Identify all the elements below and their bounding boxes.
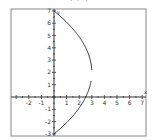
- chart: -2-11234567-3-2-11234567xy: [0, 0, 158, 140]
- plot-frame: [11, 9, 146, 136]
- y-tick-label: 4: [47, 44, 51, 51]
- x-tick-label: 6: [128, 99, 132, 106]
- y-tick-label: 1: [47, 81, 51, 88]
- y-tick-label: -2: [45, 118, 51, 125]
- x-tick-label: -1: [38, 99, 44, 106]
- y-tick-label: 2: [47, 68, 51, 75]
- x-tick-label: 7: [140, 99, 144, 106]
- x-tick-label: 1: [65, 99, 69, 106]
- y-tick-label: 3: [47, 56, 51, 63]
- y-tick-label: 6: [47, 19, 51, 26]
- x-tick-label: -2: [26, 99, 32, 106]
- x-axis-label: x: [144, 89, 147, 95]
- y-tick-label: 5: [47, 32, 51, 39]
- y-tick-label: -1: [45, 105, 51, 112]
- y-tick-label: 7: [47, 7, 51, 14]
- x-tick-label: 3: [90, 99, 94, 106]
- y-tick-label: -3: [45, 130, 51, 137]
- x-tick-label: 5: [115, 99, 119, 106]
- x-tick-label: 4: [102, 99, 106, 106]
